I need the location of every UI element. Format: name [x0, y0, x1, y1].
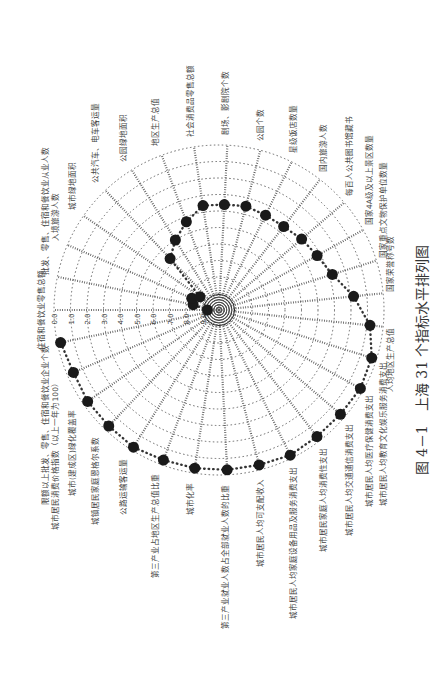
data-point-marker — [296, 234, 307, 245]
axis-category-label: 城市居民家庭人均消费性支出 — [318, 448, 328, 552]
axis-spoke — [219, 203, 344, 310]
data-point-marker — [222, 464, 233, 475]
data-series — [55, 199, 377, 475]
radar-chart-figure: 0.01.02.03.04.05.06.07.08.09.0 住宿和餐饮业零售总… — [0, 0, 442, 698]
axis-category-label: 第三产业就业人数占全部就业人数的比重 — [220, 485, 230, 629]
data-point-marker — [285, 450, 296, 461]
axis-category-label: 城市(建成区)绿化覆盖率 — [67, 410, 77, 496]
axis-spoke — [194, 310, 219, 473]
axis-category-label: 公园绿地面积 — [118, 114, 128, 162]
axis-category-label: 城镇居民家庭恩格尔系数 — [90, 437, 100, 525]
data-point-marker — [103, 421, 114, 432]
data-point-marker — [55, 337, 66, 348]
figure-caption: 图 4－1 上海 31 个指标水平排列图 — [414, 245, 430, 476]
axis-category-label: 城市居民人均教育文化娱乐服务消费支出 — [378, 362, 388, 506]
axis-spoke — [194, 147, 219, 310]
axis-category-label: 国内旅游人数 — [318, 124, 328, 172]
axis-spoke — [219, 230, 363, 310]
data-point-marker — [158, 455, 169, 466]
radial-tick-label: 7.0 — [167, 313, 175, 324]
radial-tick-label: 2.0 — [84, 313, 92, 324]
axis-spoke — [219, 180, 320, 310]
data-point-marker — [181, 216, 192, 227]
axis-category-label: 公路运输客运量 — [118, 459, 128, 515]
axis-category-label: 城市化率 — [185, 483, 195, 515]
radial-tick-label: 3.0 — [101, 313, 109, 324]
radial-tick-labels: 0.01.02.03.04.05.06.07.08.09.0 — [51, 313, 208, 324]
data-point-marker — [278, 221, 289, 232]
radial-tick-label: 8.0 — [183, 313, 191, 324]
radial-tick-label: 0.0 — [51, 313, 59, 324]
axis-category-label: 批发、零售、住宿和餐饮业从业人数 — [40, 147, 50, 275]
data-point-marker — [82, 396, 93, 407]
axis-labels: 住宿和餐饮业零售总额批发、零售、住宿和餐饮业从业人数入境旅游人数城市绿地面积公共… — [36, 65, 395, 629]
data-point-marker — [165, 253, 176, 264]
data-point-marker — [254, 459, 265, 470]
data-point-marker — [355, 383, 366, 394]
data-point-marker — [189, 463, 200, 474]
axis-category-label: 第三产业占地区生产总值比重 — [150, 474, 160, 578]
data-point-marker — [170, 234, 181, 245]
axis-category-label: 地区生产总值 — [150, 98, 160, 146]
data-point-marker — [198, 200, 209, 211]
data-point-marker — [335, 409, 346, 420]
axis-category-label: 城市居民人均家庭设备用品及服务消费支出 — [288, 467, 298, 619]
data-point-marker — [202, 305, 213, 316]
radial-tick-label: 6.0 — [150, 313, 158, 324]
radar-chart: 0.01.02.03.04.05.06.07.08.09.0 住宿和餐饮业零售总… — [0, 0, 442, 698]
figure-caption-group: 图 4－1 上海 31 个指标水平排列图 — [414, 245, 430, 476]
data-point-marker — [366, 352, 377, 363]
axis-category-label: 城市绿地面积 — [67, 162, 77, 210]
axis-category-label: 城市居民人均医疗保健消费支出 — [364, 395, 374, 507]
axis-spoke — [219, 310, 292, 458]
axis-spoke — [219, 162, 292, 310]
data-point-marker — [128, 442, 139, 453]
axis-category-label: 公园个数 — [255, 109, 265, 141]
axis-spoke — [219, 310, 363, 390]
data-point-marker — [240, 201, 251, 212]
data-point-marker — [260, 210, 271, 221]
data-point-marker — [195, 291, 206, 302]
axis-category-label: 公共汽车、电车客运量 — [90, 103, 100, 183]
radial-tick-label: 1.0 — [68, 313, 76, 324]
axis-category-label: 住宿和餐饮业零售总额 — [36, 270, 46, 350]
axis-spoke — [219, 310, 344, 417]
data-point-marker — [327, 269, 338, 280]
axis-category-label: 社会消费品零售总额 — [185, 65, 195, 137]
axis-category-label: 城市居民人均交通通信消费支出 — [344, 424, 354, 536]
axis-category-label: 限额以上批发、零售、住宿和餐饮业企业个数 — [40, 345, 50, 505]
axis-category-label: 每百人公共图书馆藏书 — [344, 116, 354, 196]
data-point-marker — [348, 291, 359, 302]
axis-spoke — [132, 310, 219, 450]
data-point-marker — [365, 320, 376, 331]
axis-category-label: 入境旅游人数 — [50, 193, 60, 241]
axis-category-label: 国家4A级及以上景区数量 — [364, 135, 374, 225]
data-point-marker — [219, 199, 230, 210]
data-point-marker — [311, 431, 322, 442]
axis-category-label: 剧场、影剧院个数 — [220, 71, 230, 135]
axis-spoke — [105, 310, 219, 430]
axis-spoke — [219, 310, 320, 440]
axis-category-label: 城市居民消费价格指数（以上一年为100） — [50, 379, 60, 530]
radial-tick-label: 5.0 — [134, 313, 142, 324]
data-point-marker — [312, 250, 323, 261]
axis-category-label: 星级饭店数量 — [288, 105, 298, 153]
axis-category-label: 国家荣誉称号数 — [385, 236, 395, 292]
data-point-marker — [68, 367, 79, 378]
axis-category-label: 城市居民人均可支配收入 — [255, 479, 265, 567]
radial-tick-label: 4.0 — [117, 313, 125, 324]
